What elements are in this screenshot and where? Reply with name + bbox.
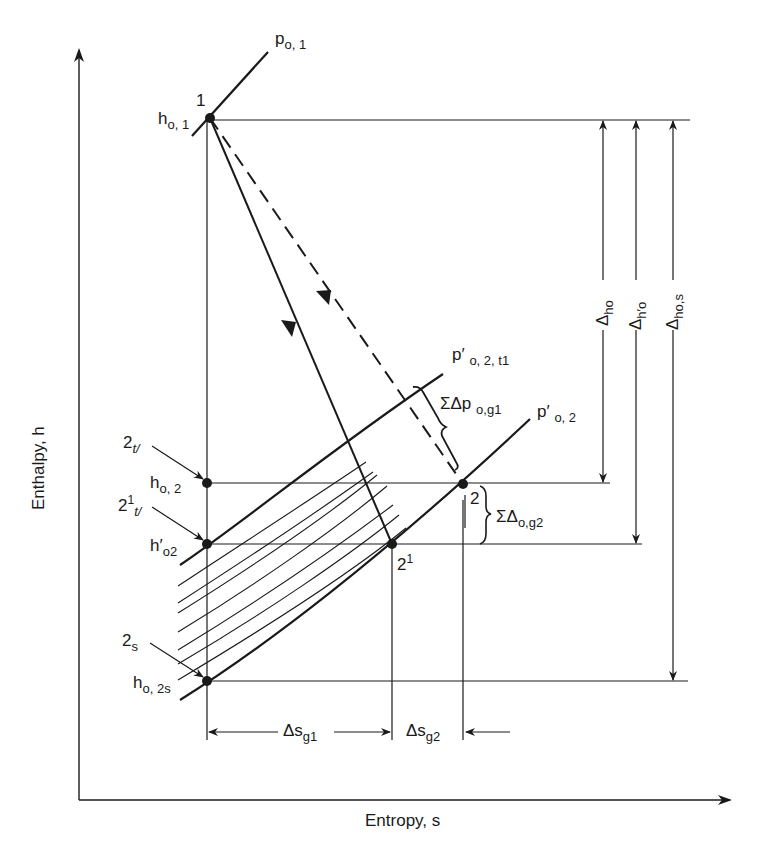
y-axis-label: Enthalpy, h xyxy=(30,426,47,510)
sum-d-main: ΣΔ xyxy=(496,507,518,526)
isobar-p-prime-o2-t1 xyxy=(180,374,443,565)
brace-sum-d xyxy=(480,486,491,544)
point-2 xyxy=(458,479,468,489)
delta-h-arrows xyxy=(603,121,673,680)
point-2prime-tl-sub: t/ xyxy=(134,504,141,519)
h-o2-sub: o, 2 xyxy=(159,481,181,496)
sum-d-sub: o,g2 xyxy=(518,515,543,530)
delta-ho-label: Δho xyxy=(594,300,611,326)
x-axis-label: Entropy, s xyxy=(365,812,440,829)
point-1 xyxy=(205,113,215,123)
delta-s-g2-label: Δsg2 xyxy=(406,722,440,739)
isobar-label-p-prime-o2-t1: p′ o, 2, t1 xyxy=(452,346,509,363)
h-o2s-sub: o, 2s xyxy=(142,681,170,696)
h-o1-label: ho, 1 xyxy=(158,110,189,127)
point-2prime-sup: 1 xyxy=(406,552,413,566)
point-2tl-sub: t/ xyxy=(132,441,139,456)
isobar-p-o1-sub: o, 1 xyxy=(284,37,306,52)
point-2prime-tl-label: 21t/ xyxy=(118,497,141,514)
point-2prime-tl xyxy=(202,539,212,549)
sum-dp-label: ΣΔp o,g1 xyxy=(440,395,501,412)
delta-h-prime-o-main: Δ xyxy=(626,319,645,330)
sum-dp-main: ΣΔp xyxy=(440,394,471,413)
pointer-2s xyxy=(150,643,203,677)
axes xyxy=(79,50,730,800)
point-2-label: 2 xyxy=(470,490,479,507)
point-2prime xyxy=(387,539,397,549)
isobar-p-prime-o2 xyxy=(180,419,530,700)
point-2tl xyxy=(202,478,212,488)
sum-d-label: ΣΔo,g2 xyxy=(496,508,543,525)
h-o2-label: ho, 2 xyxy=(150,474,181,491)
h-prime-o2-label: h′o2 xyxy=(150,537,177,554)
process-arrow-dashed xyxy=(316,290,331,305)
process-line-actual xyxy=(210,118,392,544)
delta-s-g2-main: Δs xyxy=(406,721,426,740)
isobar-p-prime-o2-main: p′ xyxy=(537,402,550,421)
isobar-label-p-o1: po, 1 xyxy=(275,30,306,47)
delta-s-g1-label: Δsg1 xyxy=(283,722,317,739)
delta-h-prime-o-label: Δh′o xyxy=(627,302,644,330)
h-prime-o2-sub: o2 xyxy=(163,544,177,559)
point-1-label: 1 xyxy=(196,92,205,109)
h-o2s-label: ho, 2s xyxy=(133,674,171,691)
delta-ho-s-main: Δ xyxy=(663,319,682,330)
h-o1-sub: o, 1 xyxy=(167,117,189,132)
process-line-dashed xyxy=(210,118,463,484)
point-2s-label: 2s xyxy=(122,632,138,649)
process-arrow-actual xyxy=(281,320,296,337)
isobar-label-p-prime-o2: p′ o, 2 xyxy=(537,403,576,420)
point-2prime-label: 21 xyxy=(397,556,413,573)
isobar-p-prime-o2-sub: o, 2 xyxy=(554,410,576,425)
delta-s-g1-main: Δs xyxy=(283,721,303,740)
isobar-p-prime-o2-t1-main: p′ xyxy=(452,345,465,364)
delta-s-g1-sub: g1 xyxy=(303,729,317,744)
point-2tl-label: 2t/ xyxy=(123,434,140,451)
delta-h-prime-o-sub: h′o xyxy=(634,302,649,319)
point-2s-sub: s xyxy=(131,639,138,654)
delta-s-g2-sub: g2 xyxy=(426,729,440,744)
point-2s xyxy=(202,676,212,686)
delta-ho-s-sub: ho,s xyxy=(671,294,686,319)
hs-diagram-canvas xyxy=(0,0,757,868)
delta-ho-s-label: Δho,s xyxy=(664,294,681,330)
h-prime-o2-main: h′ xyxy=(150,536,163,555)
delta-ho-sub: ho xyxy=(601,300,616,314)
isobar-p-prime-o2-t1-sub: o, 2, t1 xyxy=(469,353,509,368)
sum-dp-sub: o,g1 xyxy=(476,402,501,417)
delta-ho-main: Δ xyxy=(593,315,612,326)
